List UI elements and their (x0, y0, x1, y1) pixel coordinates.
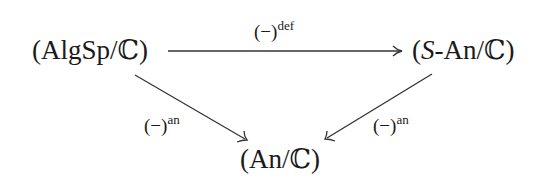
node-an-text: An/ℂ (249, 144, 311, 174)
label-an-right-sup: an (396, 112, 408, 127)
paren-close: ) (505, 35, 514, 65)
label-an-right: (−)an (373, 116, 409, 135)
node-s-an-text: -An/ℂ (435, 35, 506, 65)
label-def-sup: def (277, 18, 294, 33)
label-an-left: (−)an (144, 116, 180, 135)
node-algsp-text: AlgSp/ℂ (41, 35, 139, 65)
paren-open: ( (240, 144, 249, 174)
node-algsp: (AlgSp/ℂ) (32, 37, 148, 64)
node-s-an: (S-An/ℂ) (412, 37, 514, 64)
label-an-right-base: (−) (373, 115, 396, 136)
arrow-an-left-head (237, 131, 247, 142)
node-an: (An/ℂ) (240, 146, 320, 173)
paren-close: ) (139, 35, 148, 65)
label-an-left-sup: an (167, 112, 179, 127)
node-s-an-italic: S (421, 35, 435, 65)
paren-close: ) (311, 144, 320, 174)
label-an-left-base: (−) (144, 115, 167, 136)
paren-open: ( (412, 35, 421, 65)
label-def: (−)def (254, 22, 294, 41)
paren-open: ( (32, 35, 41, 65)
label-def-base: (−) (254, 21, 277, 42)
